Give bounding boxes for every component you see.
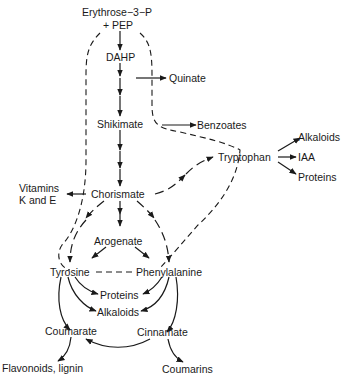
- node-dahp: DAHP: [106, 51, 135, 63]
- node-vitamins: Vitamins: [19, 182, 59, 194]
- node-phenylalanine: Phenylalanine: [136, 266, 202, 278]
- node-erythrose-3-p: Erythrose−3−P: [82, 6, 152, 18]
- shikimate-pathway-diagram: Erythrose−3−P + PEP DAHP Quinate Shikima…: [0, 0, 353, 384]
- node-cinnamate: Cinnamate: [137, 326, 188, 338]
- node-proteins: Proteins: [100, 289, 139, 301]
- node-tyrosine: Tyrosine: [50, 266, 90, 278]
- node-arogenate: Arogenate: [94, 235, 142, 247]
- node-alkaloids-trp: Alkaloids: [298, 131, 340, 143]
- node-vitamins-k-e: K and E: [19, 194, 56, 206]
- node-pep: + PEP: [103, 19, 133, 31]
- node-shikimate: Shikimate: [97, 118, 143, 130]
- node-coumarins: Coumarins: [162, 363, 213, 375]
- node-quinate: Quinate: [169, 72, 206, 84]
- node-chorismate: Chorismate: [91, 188, 145, 200]
- node-flavonoids-lignin: Flavonoids, lignin: [2, 362, 83, 374]
- node-proteins-trp: Proteins: [298, 171, 337, 183]
- node-alkaloids: Alkaloids: [97, 306, 139, 318]
- node-iaa: IAA: [298, 151, 315, 163]
- node-benzoates: Benzoates: [197, 119, 247, 131]
- node-tryptophan: Tryptophan: [218, 151, 271, 163]
- node-coumarate: Coumarate: [45, 325, 97, 337]
